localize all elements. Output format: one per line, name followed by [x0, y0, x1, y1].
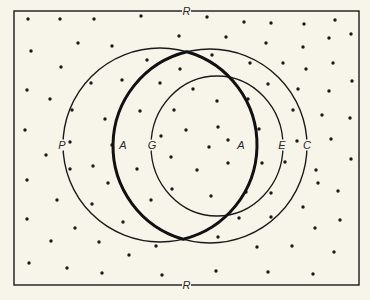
- dot: [89, 81, 92, 84]
- dot: [224, 35, 227, 38]
- dot: [260, 161, 263, 164]
- label-e: E: [277, 140, 286, 151]
- dot: [149, 198, 152, 201]
- dot: [266, 82, 269, 85]
- dot: [76, 41, 79, 44]
- dot: [59, 65, 62, 68]
- dot: [172, 108, 175, 111]
- dot: [269, 191, 272, 194]
- dot: [158, 81, 161, 84]
- diagram-svg: [0, 0, 370, 300]
- dot: [135, 167, 138, 170]
- label-g: G: [147, 140, 158, 151]
- dot: [281, 61, 284, 64]
- label-p: P: [57, 140, 66, 151]
- dot: [170, 187, 173, 190]
- venn-diagram: R R P C E G A A: [0, 0, 370, 300]
- dot: [160, 273, 163, 276]
- dot: [296, 87, 299, 90]
- dot: [68, 167, 71, 170]
- dot: [159, 134, 162, 137]
- dot: [205, 15, 208, 18]
- dot: [106, 181, 109, 184]
- dot: [269, 215, 272, 218]
- dot: [65, 266, 68, 269]
- dot: [264, 41, 267, 44]
- dot: [215, 99, 218, 102]
- label-r-top: R: [182, 6, 192, 17]
- dot: [191, 87, 194, 90]
- dot: [177, 34, 180, 37]
- dot: [178, 67, 181, 70]
- dot: [26, 17, 29, 20]
- dot: [333, 18, 336, 21]
- dot: [226, 161, 229, 164]
- dot: [242, 20, 245, 23]
- dot: [90, 202, 93, 205]
- dot: [25, 217, 28, 220]
- dot: [23, 128, 26, 131]
- dot: [290, 244, 293, 247]
- dot: [226, 138, 229, 141]
- dot: [255, 245, 258, 248]
- label-a-left: A: [118, 140, 127, 151]
- label-c: C: [302, 140, 312, 151]
- dot: [27, 261, 30, 264]
- dot: [209, 194, 212, 197]
- dot: [314, 168, 317, 171]
- dot: [154, 244, 157, 247]
- label-a-right: A: [236, 140, 245, 151]
- dot: [329, 137, 332, 140]
- circle-e-g: [151, 76, 283, 216]
- dot: [350, 79, 353, 82]
- dot: [120, 78, 123, 81]
- dot: [58, 17, 61, 20]
- dot: [237, 216, 240, 219]
- dot: [138, 109, 141, 112]
- dot: [316, 181, 319, 184]
- dot: [44, 153, 47, 156]
- dot: [216, 235, 219, 238]
- dot: [29, 49, 32, 52]
- dot: [349, 157, 352, 160]
- dot: [332, 250, 335, 253]
- dot: [301, 45, 304, 48]
- dot: [248, 61, 251, 64]
- dot: [266, 270, 269, 273]
- dot: [269, 21, 272, 24]
- dot: [139, 14, 142, 17]
- dot: [73, 226, 76, 229]
- dot: [127, 253, 130, 256]
- dot: [348, 116, 351, 119]
- dot: [48, 97, 51, 100]
- dot: [169, 155, 172, 158]
- dot: [257, 127, 260, 130]
- dot: [97, 240, 100, 243]
- dot: [92, 17, 95, 20]
- dot: [25, 178, 28, 181]
- dot: [210, 53, 213, 56]
- dot: [301, 205, 304, 208]
- dot: [302, 22, 305, 25]
- dot: [100, 271, 103, 274]
- dot: [184, 128, 187, 131]
- dot: [145, 58, 148, 61]
- dot: [331, 61, 334, 64]
- dot: [25, 88, 28, 91]
- dot: [121, 220, 124, 223]
- dot: [49, 239, 52, 242]
- dot: [320, 113, 323, 116]
- dot: [304, 67, 307, 70]
- dot: [295, 139, 298, 142]
- dot: [214, 269, 217, 272]
- dot: [207, 145, 210, 148]
- dot: [91, 164, 94, 167]
- dot: [336, 189, 339, 192]
- dot: [195, 168, 198, 171]
- dot: [313, 226, 316, 229]
- dot: [349, 32, 352, 35]
- dot: [338, 218, 341, 221]
- dot: [327, 89, 330, 92]
- dot: [70, 108, 73, 111]
- dot: [68, 140, 71, 143]
